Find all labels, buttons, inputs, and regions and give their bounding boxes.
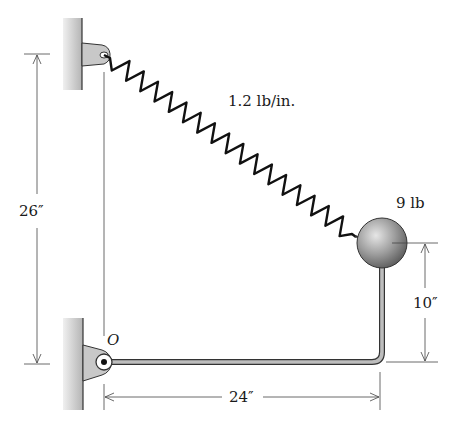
dimension-10-label: 10″	[413, 296, 438, 311]
wall-top	[63, 18, 82, 90]
pivot-label: O	[107, 333, 119, 348]
dimension-26-label: 26″	[19, 204, 44, 219]
ball-weight-label: 9 lb	[396, 196, 425, 211]
bent-rod	[104, 262, 382, 362]
wall-bottom	[63, 318, 83, 410]
spring-constant-label: 1.2 lb/in.	[228, 94, 295, 109]
pivot-O	[83, 345, 112, 381]
mechanism-diagram	[0, 0, 455, 442]
spring-bracket	[82, 43, 110, 66]
spring	[104, 55, 356, 237]
dimension-24-label: 24″	[229, 390, 254, 405]
